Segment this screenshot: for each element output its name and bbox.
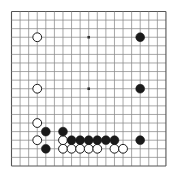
- white-stone[interactable]: [33, 33, 42, 42]
- white-stone[interactable]: [33, 119, 42, 128]
- black-stone[interactable]: [93, 136, 102, 145]
- star-point: [87, 36, 90, 39]
- white-stone[interactable]: [59, 136, 68, 145]
- white-stone[interactable]: [33, 84, 42, 93]
- black-stone[interactable]: [101, 136, 110, 145]
- black-stone[interactable]: [136, 84, 145, 93]
- white-stone[interactable]: [67, 144, 76, 153]
- black-stone[interactable]: [84, 136, 93, 145]
- black-stone[interactable]: [76, 136, 85, 145]
- black-stone[interactable]: [136, 136, 145, 145]
- black-stone[interactable]: [59, 127, 68, 136]
- white-stone[interactable]: [84, 144, 93, 153]
- black-stone[interactable]: [136, 33, 145, 42]
- white-stone[interactable]: [33, 136, 42, 145]
- white-stone[interactable]: [93, 144, 102, 153]
- black-stone[interactable]: [41, 127, 50, 136]
- black-stone[interactable]: [110, 136, 119, 145]
- white-stone[interactable]: [110, 144, 119, 153]
- star-point: [87, 87, 90, 90]
- black-stone[interactable]: [67, 136, 76, 145]
- go-board[interactable]: [0, 0, 178, 182]
- white-stone[interactable]: [59, 144, 68, 153]
- black-stone[interactable]: [41, 144, 50, 153]
- go-board-container: [0, 0, 178, 182]
- white-stone[interactable]: [76, 144, 85, 153]
- white-stone[interactable]: [119, 144, 128, 153]
